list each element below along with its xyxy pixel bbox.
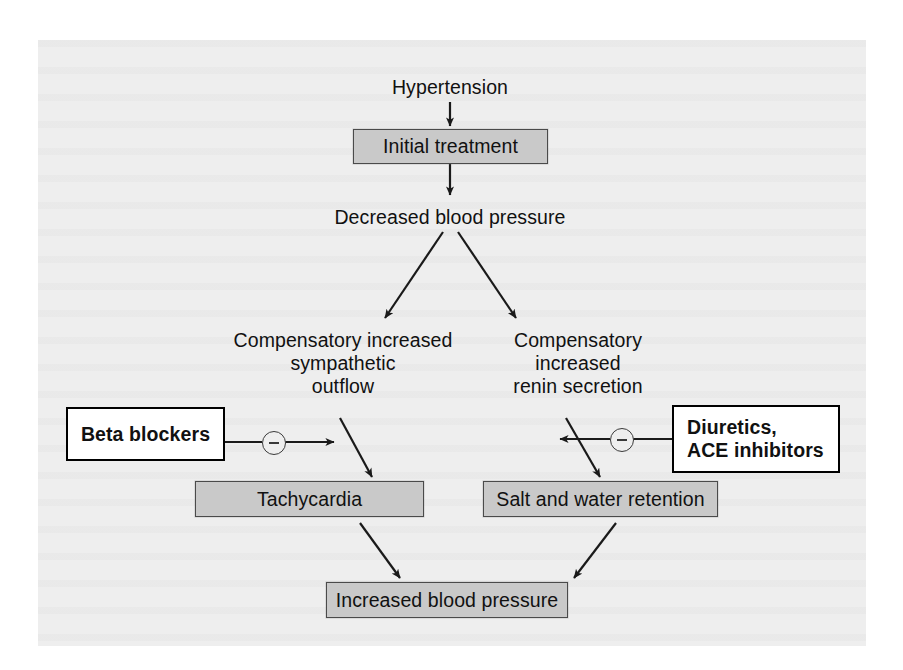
node-diuretics-ace-inhibitors: Diuretics, ACE inhibitors	[672, 405, 840, 473]
edge-tachycardia-to-increased-bp	[360, 523, 400, 578]
node-salt-and-water-retention: Salt and water retention	[483, 481, 718, 517]
node-decreased-blood-pressure: Decreased blood pressure	[310, 203, 590, 231]
minus-sign-icon-left	[262, 431, 286, 455]
edge-sympathetic-to-tachycardia	[340, 418, 372, 477]
node-compensatory-sympathetic-outflow: Compensatory increased sympathetic outfl…	[223, 327, 463, 399]
edge-decreased-bp-to-sympathetic	[385, 232, 443, 318]
node-hypertension: Hypertension	[330, 73, 570, 101]
minus-sign-icon-right	[610, 428, 634, 452]
node-initial-treatment: Initial treatment	[353, 129, 548, 164]
node-increased-blood-pressure: Increased blood pressure	[326, 582, 568, 618]
scanned-figure-plate: Hypertension Initial treatment Decreased…	[38, 40, 866, 646]
node-compensatory-renin-secretion: Compensatory increased renin secretion	[468, 327, 688, 399]
node-tachycardia: Tachycardia	[195, 481, 424, 517]
edge-salt-water-to-increased-bp	[574, 523, 616, 578]
edge-decreased-bp-to-renin	[458, 232, 516, 318]
node-beta-blockers: Beta blockers	[66, 407, 225, 461]
figure-page: Hypertension Initial treatment Decreased…	[0, 0, 903, 670]
edge-renin-to-salt-water	[566, 418, 600, 477]
